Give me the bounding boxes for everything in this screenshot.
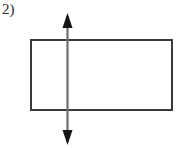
rectangle-shape — [31, 40, 172, 110]
diagram-canvas: 2) — [0, 0, 177, 148]
arrowhead-up-icon — [63, 13, 73, 28]
arrowhead-down-icon — [63, 130, 73, 145]
geometry-figure — [0, 0, 177, 148]
